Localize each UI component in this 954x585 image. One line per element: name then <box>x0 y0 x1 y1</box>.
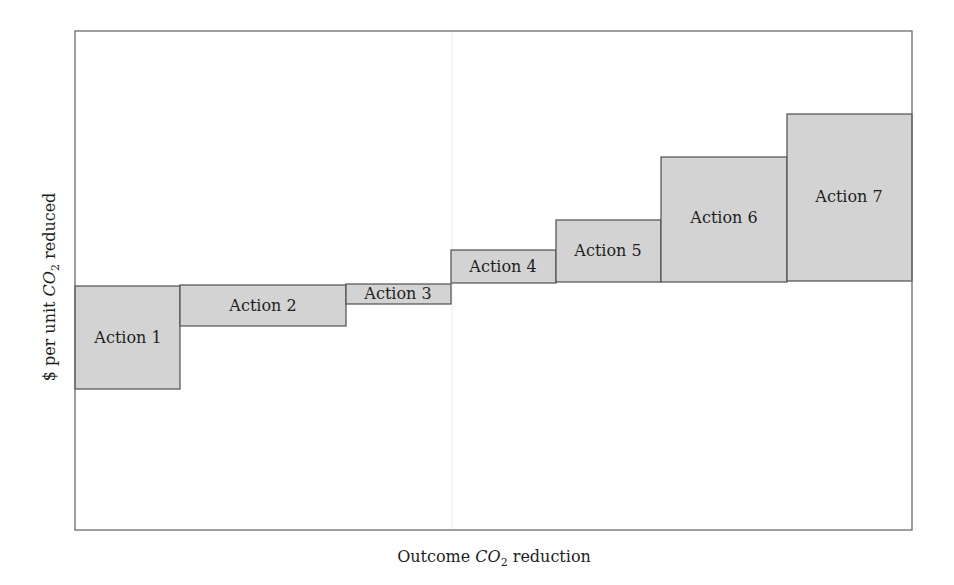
bars-group <box>75 114 912 389</box>
bar-label-action-6: Action 6 <box>689 208 757 227</box>
y-axis-label: $ per unit CO2 reduced <box>40 193 62 382</box>
bar-label-action-1: Action 1 <box>93 328 161 347</box>
x-axis-label: Outcome CO2 reduction <box>397 547 591 569</box>
bar-label-action-3: Action 3 <box>363 284 431 303</box>
cost-curve-chart: Action 1Action 2Action 3Action 4Action 5… <box>0 0 954 585</box>
bar-label-action-4: Action 4 <box>468 257 536 276</box>
bar-label-action-7: Action 7 <box>814 187 882 206</box>
bar-label-action-2: Action 2 <box>228 296 296 315</box>
bar-label-action-5: Action 5 <box>573 241 641 260</box>
